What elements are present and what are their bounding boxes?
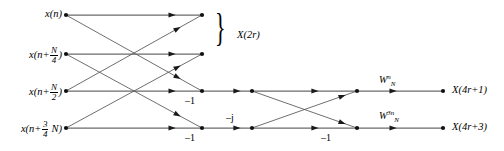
fraction: 34 — [42, 120, 49, 139]
stage1-node-0 — [200, 13, 204, 17]
edge-arrowhead — [173, 63, 182, 71]
stage3-node-3 — [355, 126, 359, 130]
coefficient-minus-one-row4: –1 — [185, 133, 195, 143]
edge-arrowhead — [390, 88, 397, 93]
coefficient-minus-j: –j — [226, 113, 234, 123]
brace-glyph: } — [215, 8, 226, 48]
edge-arrowhead — [168, 125, 175, 130]
stage1-node-2 — [200, 89, 204, 93]
edge-arrowhead — [233, 125, 240, 130]
input-node-2 — [64, 89, 68, 93]
input-node-3 — [64, 126, 68, 130]
input-label-2: x(n+N2) — [0, 83, 62, 102]
output-node-1 — [441, 89, 445, 93]
edge-arrowhead — [168, 12, 175, 17]
edge-arrowhead — [173, 25, 182, 33]
input-label-0: x(n) — [0, 9, 62, 20]
stage2-node-2 — [250, 89, 254, 93]
input-node-0 — [64, 13, 68, 17]
edge-arrowhead — [311, 88, 318, 93]
output-label-4r-plus-3: X(4r+3) — [452, 122, 487, 133]
edge-arrowhead — [338, 119, 347, 126]
edge-arrowhead — [173, 73, 182, 81]
input-label-3: x(n+34 N) — [0, 120, 62, 139]
edge-arrowhead — [311, 125, 318, 130]
output-node-3 — [441, 126, 445, 130]
stage3-node-2 — [355, 89, 359, 93]
fraction: N2 — [50, 83, 58, 102]
twiddle-w-n: WnN — [379, 74, 396, 88]
stage1-node-3 — [200, 126, 204, 130]
coefficient-minus-one-stage3: –1 — [321, 133, 331, 143]
stage1-node-1 — [200, 52, 204, 56]
edge-arrowhead — [168, 88, 175, 93]
figure-canvas: x(n) x(n+N4) x(n+N2) x(n+34 N) –1 –1 –j … — [0, 0, 504, 151]
edge-arrowhead — [168, 51, 175, 56]
flow-graph-svg — [0, 0, 504, 151]
edge-arrowhead — [233, 88, 240, 93]
fraction: N4 — [50, 46, 58, 65]
input-label-1: x(n+N4) — [0, 46, 62, 65]
input-node-1 — [64, 52, 68, 56]
coefficient-minus-one-row3: –1 — [185, 96, 195, 106]
twiddle-w-3n: W3nN — [379, 110, 399, 124]
stage2-node-3 — [250, 126, 254, 130]
edge-arrowhead — [338, 93, 347, 100]
edge-arrowhead — [173, 111, 182, 119]
output-label-4r-plus-1: X(4r+1) — [452, 85, 487, 96]
grouped-output-label: X(2r) — [237, 30, 260, 41]
edge-arrowhead — [390, 125, 397, 130]
